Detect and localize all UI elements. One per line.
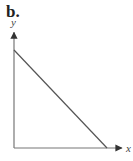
y-axis-label: y: [10, 16, 16, 28]
x-axis-label: x: [125, 142, 131, 154]
data-line: [14, 50, 107, 148]
diagram-plot: x y: [0, 0, 133, 161]
